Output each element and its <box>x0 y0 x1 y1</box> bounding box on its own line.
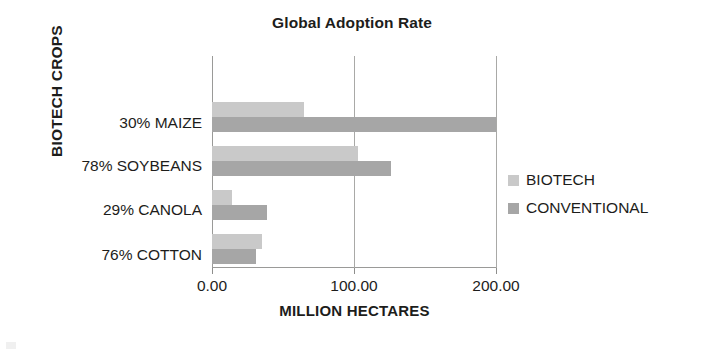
scan-edge-artifact <box>6 342 16 349</box>
bar-group-canola <box>212 190 497 230</box>
chart-legend: BIOTECH CONVENTIONAL <box>508 166 648 222</box>
category-label-maize: 30% MAIZE <box>56 114 202 132</box>
x-axis-tick-labels: 0.00 100.00 200.00 <box>212 277 532 299</box>
legend-item-conventional[interactable]: CONVENTIONAL <box>508 194 648 222</box>
plot-area <box>212 56 497 268</box>
x-tick-label-100: 100.00 <box>330 277 377 295</box>
chart-title: Global Adoption Rate <box>0 14 704 32</box>
bar-maize-conventional[interactable] <box>212 117 496 132</box>
bar-soybeans-conventional[interactable] <box>212 161 391 176</box>
bar-cotton-conventional[interactable] <box>212 249 256 264</box>
legend-swatch-conventional-icon <box>508 203 519 214</box>
x-axis-title: MILLION HECTARES <box>212 302 497 319</box>
x-tick-label-0: 0.00 <box>197 277 227 295</box>
bar-cotton-biotech[interactable] <box>212 234 262 249</box>
legend-item-biotech[interactable]: BIOTECH <box>508 166 648 194</box>
category-label-soybeans: 78% SOYBEANS <box>56 157 202 175</box>
x-tick-label-200: 200.00 <box>472 277 519 295</box>
bar-group-soybeans <box>212 146 497 186</box>
bar-soybeans-biotech[interactable] <box>212 146 358 161</box>
category-label-cotton: 76% COTTON <box>56 246 202 264</box>
legend-label-conventional: CONVENTIONAL <box>526 199 648 217</box>
bar-chart: Global Adoption Rate BIOTECH CROPS 30% M… <box>0 0 704 352</box>
bar-group-maize <box>212 102 497 142</box>
bar-canola-biotech[interactable] <box>212 190 232 205</box>
category-label-canola: 29% CANOLA <box>56 201 202 219</box>
y-axis-category-labels: 30% MAIZE 78% SOYBEANS 29% CANOLA 76% CO… <box>60 56 206 268</box>
bar-group-cotton <box>212 234 497 274</box>
legend-label-biotech: BIOTECH <box>526 171 595 189</box>
legend-swatch-biotech-icon <box>508 175 519 186</box>
bar-canola-conventional[interactable] <box>212 205 267 220</box>
bar-maize-biotech[interactable] <box>212 102 304 117</box>
